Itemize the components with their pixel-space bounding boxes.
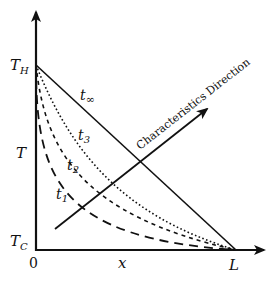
label-characteristics-direction: Characteristics Direction [134, 56, 253, 153]
label-t-infinity: t∞ [80, 87, 95, 106]
label-t3: t3 [78, 127, 90, 145]
label-T-axis: T [16, 144, 27, 162]
label-origin: 0 [29, 255, 38, 271]
label-T-C: TC [10, 232, 28, 252]
label-t2: t2 [67, 157, 79, 175]
label-L: L [228, 256, 239, 274]
label-t1: t1 [56, 186, 68, 204]
diagram-canvas: TH TC T 0 x L t∞ t3 t2 t1 Characteristic… [0, 0, 280, 284]
label-T-H: TH [10, 56, 29, 76]
label-x-axis: x [118, 254, 127, 272]
